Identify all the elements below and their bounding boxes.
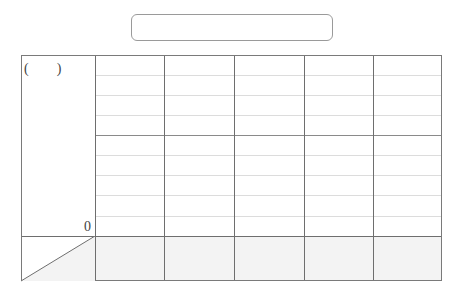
category-cell-1[interactable] xyxy=(96,237,164,280)
chart-title-box[interactable] xyxy=(131,14,333,41)
corner-diagonal xyxy=(21,236,96,282)
category-cell-2[interactable] xyxy=(165,237,234,280)
category-cell-5[interactable] xyxy=(374,237,441,280)
category-cell-3[interactable] xyxy=(235,237,304,280)
y-axis-unit-label: ( ) xyxy=(24,57,61,77)
y-axis-zero-label: 0 xyxy=(84,219,91,235)
category-cell-4[interactable] xyxy=(305,237,373,280)
